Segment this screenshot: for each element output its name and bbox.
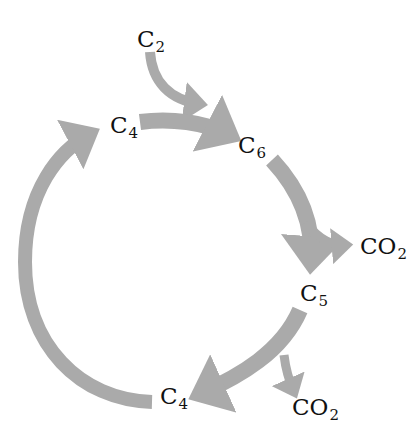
cycle-arrows [0, 0, 415, 440]
arrow-c5-to-c4 [200, 310, 300, 394]
arrow-c4-to-c6 [140, 121, 230, 135]
label-c2: C2 [137, 28, 165, 55]
arrow-to-co2-bottom [284, 355, 294, 392]
arrow-c4-to-c4 [25, 134, 152, 402]
arrow-c6-to-c5 [272, 160, 311, 262]
label-co2-bottom: CO2 [292, 396, 339, 423]
label-c4-top: C4 [110, 114, 138, 141]
arrow-c2-to-c6 [150, 52, 200, 104]
label-c5: C5 [300, 282, 328, 309]
label-c6: C6 [238, 134, 266, 161]
label-c4-bottom: C4 [160, 385, 188, 412]
label-co2-right: CO2 [360, 235, 407, 262]
